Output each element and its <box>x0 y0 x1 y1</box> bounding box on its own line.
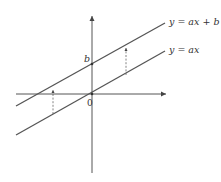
line-label-y-ax-plus-b: y = ax + b <box>168 16 219 27</box>
line-label-y-ax: y = ax <box>168 44 200 55</box>
intercept-point <box>91 63 94 66</box>
origin-point <box>91 93 94 96</box>
intercept-label: b <box>84 53 90 64</box>
origin-label: 0 <box>87 98 93 108</box>
diagram-canvas: b 0 y = ax + b y = ax <box>0 0 221 182</box>
